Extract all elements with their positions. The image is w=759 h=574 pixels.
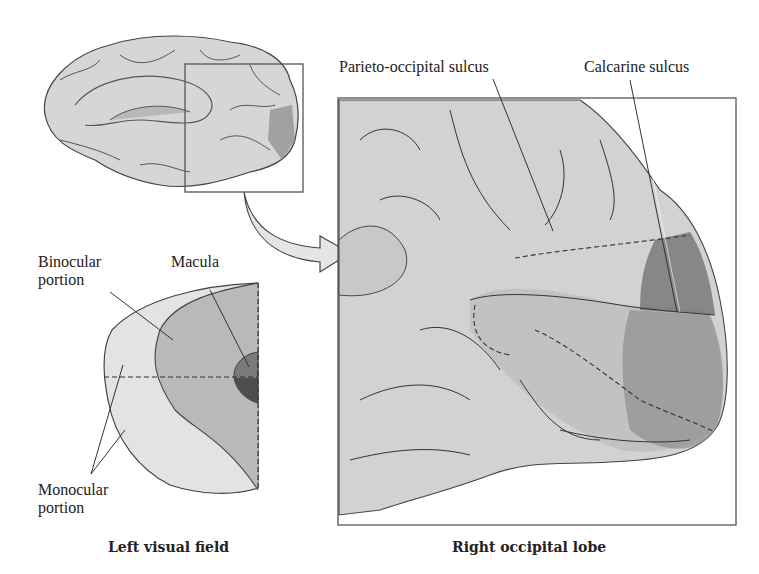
brain-inset xyxy=(44,36,303,192)
caption-left-visual-field: Left visual field xyxy=(108,539,229,555)
label-binocular-2: portion xyxy=(38,271,84,289)
label-macula: Macula xyxy=(171,253,219,271)
label-binocular-1: Binocular xyxy=(38,253,101,271)
diagram-canvas xyxy=(0,0,759,574)
occipital-lobe-diagram xyxy=(338,79,736,525)
caption-right-occipital-lobe: Right occipital lobe xyxy=(452,539,606,555)
label-monocular-2: portion xyxy=(38,499,84,517)
label-monocular-1: Monocular xyxy=(38,481,108,499)
visual-field-diagram xyxy=(91,283,258,493)
label-calcarine: Calcarine sulcus xyxy=(584,58,689,76)
arrow-icon xyxy=(244,192,350,272)
label-parieto-occipital: Parieto-occipital sulcus xyxy=(339,58,489,76)
